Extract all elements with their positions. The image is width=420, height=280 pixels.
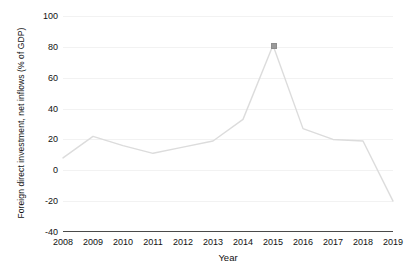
y-tick-label: 100	[18, 12, 58, 21]
y-tick-label: 60	[18, 73, 58, 82]
y-tick-label: 0	[18, 166, 58, 175]
x-axis-title: Year	[63, 252, 393, 263]
plot-area: -40-20020406080100 200820092010201120122…	[63, 16, 393, 232]
y-tick-label: 20	[18, 135, 58, 144]
y-tick-label: 80	[18, 42, 58, 51]
y-tick-label: 40	[18, 104, 58, 113]
data-series-line	[63, 16, 393, 232]
y-tick-label: -40	[18, 228, 58, 237]
x-tick-label: 2019	[373, 237, 413, 247]
x-axis-spine	[63, 231, 393, 232]
chart-figure: Foreign direct investment, net inflows (…	[0, 0, 420, 280]
y-tick-label: -20	[18, 197, 58, 206]
data-point-marker	[271, 43, 277, 49]
